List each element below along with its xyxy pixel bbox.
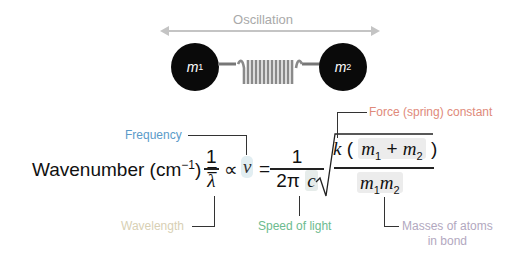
- masses-leader: [384, 197, 385, 226]
- double-arrow-icon: [160, 26, 380, 36]
- speed-of-light-label: Speed of light: [258, 219, 331, 233]
- numerator: k ( m1 + m2 ): [333, 138, 437, 162]
- force-constant-label: Force (spring) constant: [369, 105, 492, 119]
- wavenumber-label: Wavenumber (cm−1) =: [32, 158, 218, 181]
- force-constant-leader: [337, 112, 367, 113]
- frequency-label: Frequency: [125, 128, 182, 142]
- wavelength-leader: [192, 226, 214, 227]
- speed-of-light-leader: [299, 196, 300, 216]
- frequency-leader: [188, 135, 246, 136]
- spring-icon: [218, 54, 320, 88]
- denominator: m1m2: [357, 172, 403, 196]
- one-over-lambda: 1λ: [204, 146, 219, 192]
- proportional-symbol: ∝: [224, 158, 238, 181]
- fraction-bar: [334, 167, 434, 169]
- mass-1-ball: m1: [171, 43, 219, 91]
- equals-sign: =: [259, 158, 270, 180]
- oscillation-label: Oscillation: [0, 12, 526, 27]
- nu-symbol: ν: [241, 156, 253, 178]
- wavelength-label: Wavelength: [121, 219, 184, 233]
- mass-2-ball: m2: [319, 43, 367, 91]
- masses-label: Masses of atomsin bond: [402, 219, 493, 249]
